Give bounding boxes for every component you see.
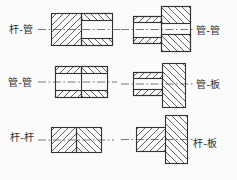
label-rod-tube: 杆-管 <box>9 23 34 36</box>
label-tube-plate: 管-板 <box>196 78 221 91</box>
diagram-rod-rod <box>38 128 114 153</box>
label-rod-rod: 杆-杆 <box>10 131 35 144</box>
diagram-tube-tube <box>38 67 117 98</box>
joint-types-figure: 杆-管 管-管 杆-杆 管-管 管-板 杆-板 <box>0 0 237 180</box>
label-tube-tube-stepped: 管-管 <box>196 24 221 37</box>
diagram-rod-tube <box>38 14 122 46</box>
diagram-tube-plate <box>121 64 194 108</box>
label-tube-tube: 管-管 <box>8 76 33 89</box>
diagram-tube-tube-stepped <box>121 7 194 52</box>
diagram-rod-plate <box>121 116 194 164</box>
label-rod-plate: 杆-板 <box>193 137 218 150</box>
